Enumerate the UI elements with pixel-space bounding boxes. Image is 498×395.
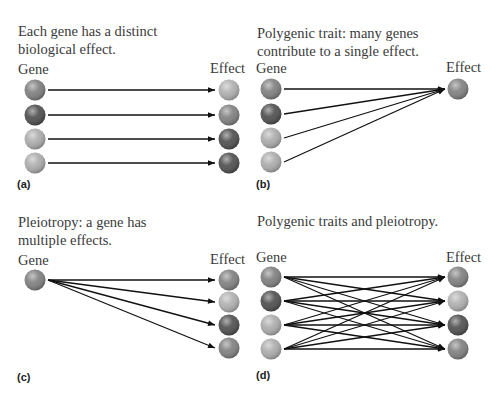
effect-sphere (219, 292, 240, 313)
effect-sphere (219, 105, 240, 126)
effect-sphere (448, 291, 469, 312)
gene-sphere (25, 153, 46, 174)
connection-arrows (48, 89, 445, 349)
effect-sphere (448, 315, 469, 336)
effect-sphere (219, 80, 240, 101)
gene-sphere (25, 105, 46, 126)
gene-sphere (261, 152, 282, 173)
arrow (48, 280, 215, 325)
gene-sphere (25, 270, 46, 291)
effect-sphere (448, 339, 469, 360)
gene-sphere (261, 291, 282, 312)
gene-sphere (261, 339, 282, 360)
gene-sphere (261, 104, 282, 125)
gene-sphere (261, 315, 282, 336)
gene-sphere (25, 129, 46, 150)
arrow (48, 280, 215, 348)
arrow (284, 89, 445, 162)
gene-sphere (261, 267, 282, 288)
diagram-canvas (0, 0, 498, 395)
arrow (48, 280, 215, 302)
gene-sphere (261, 128, 282, 149)
arrow (284, 89, 445, 114)
gene-sphere (261, 79, 282, 100)
gene-sphere (25, 80, 46, 101)
sphere-nodes (25, 79, 469, 360)
effect-sphere (448, 79, 469, 100)
effect-sphere (448, 267, 469, 288)
effect-sphere (219, 153, 240, 174)
effect-sphere (219, 338, 240, 359)
arrow (284, 89, 445, 138)
effect-sphere (219, 129, 240, 150)
effect-sphere (219, 270, 240, 291)
effect-sphere (219, 315, 240, 336)
